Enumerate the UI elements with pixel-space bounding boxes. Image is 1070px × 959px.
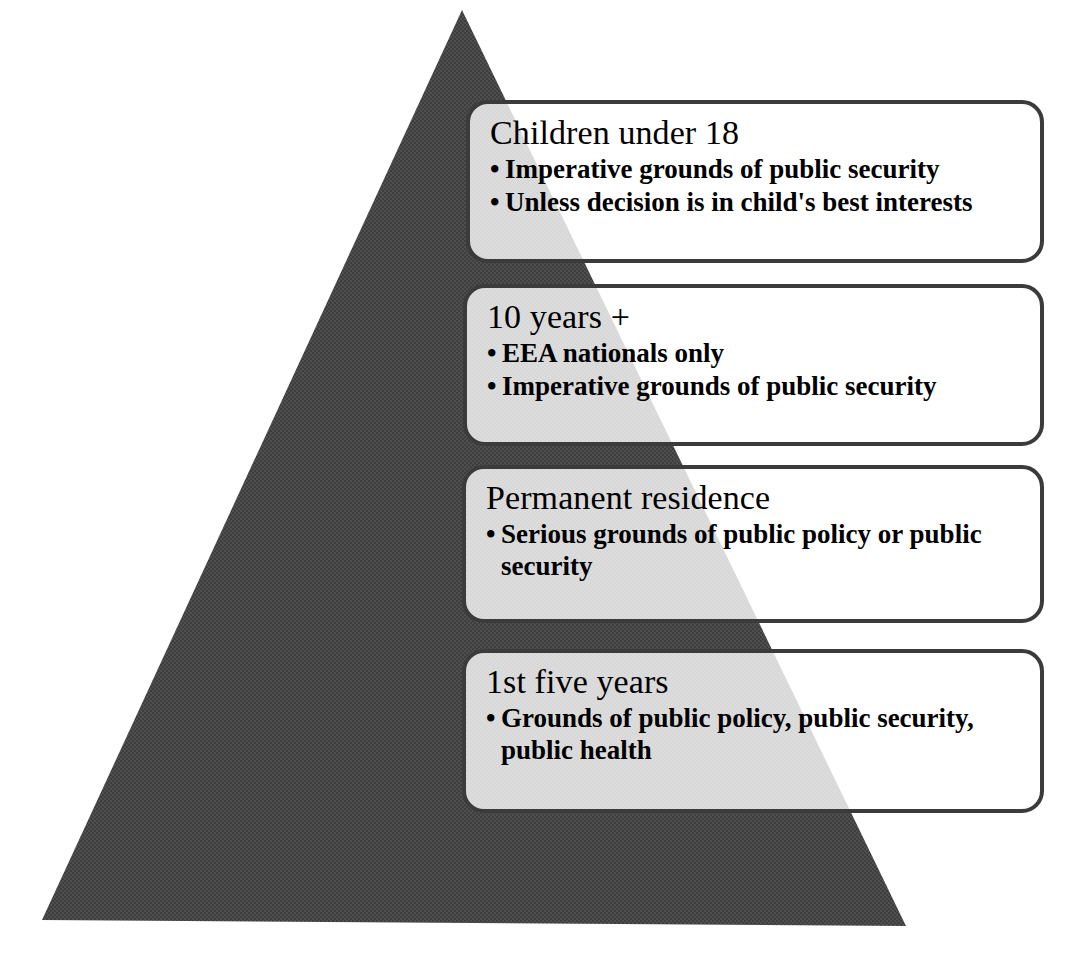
tier-card-permanent-residence[interactable]: Permanent residence Serious grounds of p… [462,465,1044,623]
tier-bullet: Imperative grounds of public security [490,154,1018,186]
tier-bullet: Serious grounds of public policy or publ… [486,519,1018,583]
tier-title: Permanent residence [486,479,1018,517]
tier-bullet-list: Serious grounds of public policy or publ… [486,519,1018,583]
tier-bullet: Imperative grounds of public security [487,371,1018,403]
tier-card-children-under-18[interactable]: Children under 18 Imperative grounds of … [466,100,1044,263]
tier-title: Children under 18 [490,114,1018,152]
tier-title: 10 years + [487,298,1018,336]
tier-bullet: EEA nationals only [487,338,1018,370]
tier-bullet-list: Grounds of public policy, public securit… [486,703,1018,767]
tier-card-first-five-years[interactable]: 1st five years Grounds of public policy,… [462,649,1044,813]
tier-bullet: Grounds of public policy, public securit… [486,703,1018,767]
diagram-canvas: Children under 18 Imperative grounds of … [0,0,1070,959]
tier-bullet: Unless decision is in child's best inter… [490,187,1018,219]
tier-bullet-list: EEA nationals only Imperative grounds of… [487,338,1018,403]
tier-bullet-list: Imperative grounds of public security Un… [490,154,1018,219]
tier-card-ten-years-plus[interactable]: 10 years + EEA nationals only Imperative… [463,284,1044,446]
tier-title: 1st five years [486,663,1018,701]
